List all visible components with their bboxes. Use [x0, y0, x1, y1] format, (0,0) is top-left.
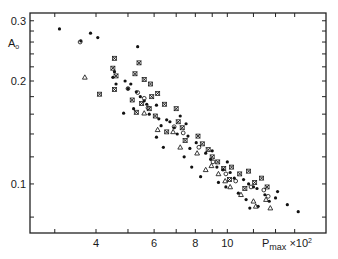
data-point-triangles [178, 145, 183, 149]
data-point-crosses [140, 101, 144, 105]
data-point-dots [155, 104, 158, 107]
data-point-dots [162, 146, 165, 149]
data-point-crosses [142, 78, 146, 82]
data-point-dots [58, 27, 61, 30]
data-point-crosses [196, 134, 200, 138]
data-point-dots [229, 171, 232, 174]
data-point-dots [168, 120, 171, 123]
y-tick-label: 0.3 [11, 15, 26, 27]
data-point-crosses [134, 110, 138, 114]
data-point-dots [286, 203, 289, 206]
data-point-crosses [98, 92, 102, 96]
data-point-open-circles [266, 194, 270, 198]
data-point-crosses [156, 91, 160, 95]
data-point-dots [155, 136, 158, 139]
data-point-triangles [223, 179, 228, 183]
data-point-crosses [150, 95, 154, 99]
data-point-crosses [114, 74, 118, 78]
data-point-triangles [251, 199, 256, 203]
y-tick-label: 0.2 [11, 75, 26, 87]
data-point-open-circles [234, 179, 238, 183]
data-point-crosses [137, 61, 141, 65]
data-point-dots [242, 178, 245, 181]
data-point-dots [186, 135, 189, 138]
data-point-triangles [216, 171, 221, 175]
data-point-crosses [112, 87, 116, 91]
data-point-triangles [142, 111, 147, 115]
y-axis-label: Ao [8, 37, 19, 50]
data-point-dots [165, 118, 168, 121]
data-point-dots [274, 196, 277, 199]
data-point-dots [215, 166, 218, 169]
data-point-dots [139, 95, 142, 98]
data-point-dots [244, 198, 247, 201]
data-point-crosses [180, 126, 184, 130]
data-point-crosses [174, 107, 178, 111]
y-ticks: 0.10.20.3 [11, 15, 326, 217]
data-point-crosses [133, 72, 137, 76]
data-point-crosses [183, 138, 187, 142]
data-points [58, 27, 300, 213]
data-point-triangles [203, 167, 208, 171]
data-point-crosses [130, 98, 134, 102]
x-tick-label: 10 [221, 237, 233, 249]
data-point-triangles [228, 184, 233, 188]
data-point-crosses [243, 186, 247, 190]
data-point-dots [148, 113, 151, 116]
data-point-dots [204, 152, 207, 155]
data-point-triangles [253, 204, 258, 208]
data-point-dots [145, 103, 148, 106]
data-point-crosses [253, 180, 257, 184]
data-point-crosses [230, 165, 234, 169]
data-point-open-circles [181, 131, 185, 135]
data-point-dots [183, 155, 186, 158]
data-point-crosses [200, 142, 204, 146]
x-tick-label: 6 [151, 237, 157, 249]
data-point-dots [276, 190, 279, 193]
data-point-crosses [210, 155, 214, 159]
data-point-dots [190, 166, 193, 169]
data-point-crosses [265, 185, 269, 189]
data-point-dots [123, 79, 126, 82]
data-point-crosses [227, 178, 231, 182]
data-point-open-circles [197, 145, 201, 149]
data-point-dots [179, 114, 182, 117]
scatter-chart: 46810 0.10.20.3 Ao Pmax ×102 [0, 0, 338, 259]
data-point-dots [199, 175, 202, 178]
plot-frame [30, 13, 326, 233]
data-point-dots [184, 122, 187, 125]
x-tick-label: 8 [192, 237, 198, 249]
data-point-triangles [82, 75, 87, 79]
data-point-dots [248, 206, 251, 209]
x-ticks: 46810 [55, 13, 295, 249]
data-point-dots [255, 187, 258, 190]
data-point-crosses [176, 120, 180, 124]
data-point-crosses [260, 176, 264, 180]
data-point-dots [226, 160, 229, 163]
data-point-dots [195, 141, 198, 144]
data-point-dots [224, 185, 227, 188]
data-point-triangles [268, 206, 273, 210]
data-point-crosses [162, 102, 166, 106]
data-point-crosses [247, 169, 251, 173]
data-point-crosses [111, 66, 115, 70]
x-tick-label: 4 [93, 237, 99, 249]
data-point-dots [132, 107, 135, 110]
y-tick-label: 0.1 [11, 178, 26, 190]
data-point-dots [114, 82, 117, 85]
data-point-dots [160, 124, 163, 127]
data-point-dots [136, 45, 139, 48]
data-point-dots [211, 149, 214, 152]
data-point-crosses [112, 56, 116, 60]
data-point-dots [89, 32, 92, 35]
data-point-dots [122, 112, 125, 115]
data-point-triangles [155, 127, 160, 131]
data-point-open-circles [224, 172, 228, 176]
data-point-triangles [195, 151, 200, 155]
data-point-crosses [216, 160, 220, 164]
data-point-triangles [171, 129, 176, 133]
x-axis-label: Pmax ×102 [262, 237, 312, 252]
data-point-dots [188, 147, 191, 150]
data-point-crosses [165, 130, 169, 134]
data-point-dots [129, 82, 132, 85]
